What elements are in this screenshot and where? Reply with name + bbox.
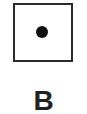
center-dot-icon <box>36 26 48 38</box>
panel-label: B <box>0 87 87 114</box>
